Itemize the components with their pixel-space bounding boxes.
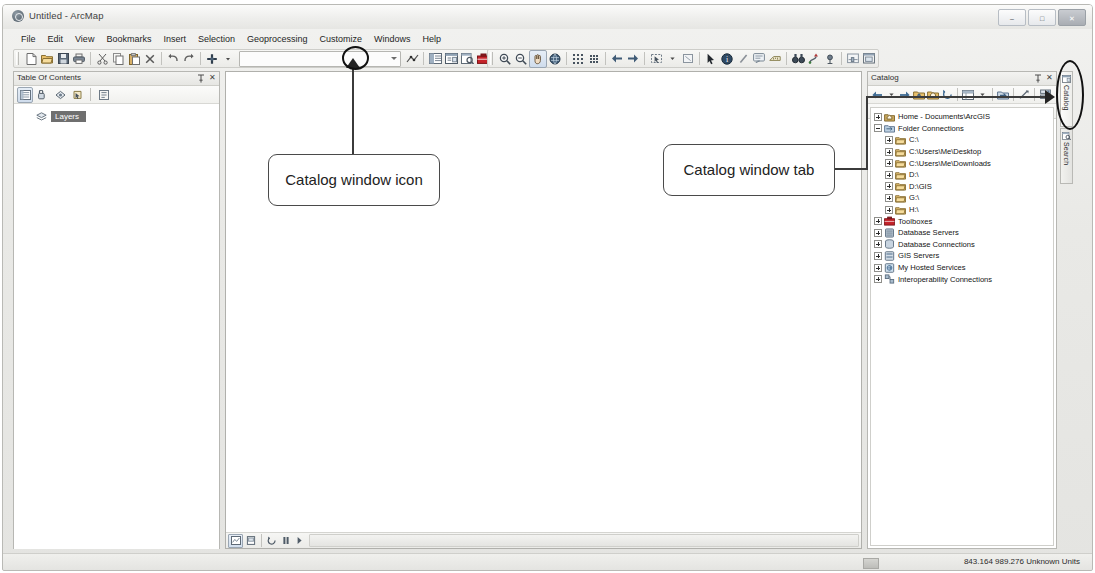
- list-by-visibility-icon[interactable]: [53, 88, 67, 102]
- maximize-button[interactable]: □: [1028, 9, 1056, 26]
- identify-icon[interactable]: i: [719, 51, 735, 67]
- pan-hand-icon[interactable]: [529, 50, 547, 68]
- catalog-window-icon[interactable]: [443, 51, 459, 67]
- menu-customize[interactable]: Customize: [314, 33, 369, 45]
- menu-edit[interactable]: Edit: [42, 33, 70, 45]
- pause-drawing-icon[interactable]: [279, 535, 292, 547]
- pin-icon[interactable]: [197, 74, 205, 83]
- map-canvas[interactable]: [226, 72, 861, 532]
- catalog-tree-item[interactable]: Toolboxes: [871, 215, 1053, 227]
- catalog-tree-item[interactable]: C:\Users\Me\Downloads: [871, 157, 1053, 169]
- catalog-tree[interactable]: Home - Documents\ArcGIS Folder Connectio…: [870, 107, 1054, 546]
- expander-icon[interactable]: [885, 148, 893, 156]
- toggle-contents-panel-icon[interactable]: [1017, 87, 1031, 102]
- select-features-icon[interactable]: [648, 51, 664, 67]
- view-dropdown-icon[interactable]: [975, 87, 989, 102]
- toc-layers-row[interactable]: Layers: [36, 111, 86, 122]
- menu-bookmarks[interactable]: Bookmarks: [100, 33, 157, 45]
- menu-selection[interactable]: Selection: [192, 33, 241, 45]
- layout-view-icon[interactable]: [244, 535, 257, 547]
- expander-icon[interactable]: [885, 206, 893, 214]
- catalog-tree-item[interactable]: D:\GIS: [871, 181, 1053, 193]
- html-popup-icon[interactable]: [751, 51, 767, 67]
- close-button[interactable]: ✕: [1058, 9, 1086, 26]
- catalog-tree-item[interactable]: Database Connections: [871, 239, 1053, 251]
- select-features-dropdown-icon[interactable]: [664, 51, 680, 67]
- menu-insert[interactable]: Insert: [157, 33, 192, 45]
- menu-file[interactable]: File: [15, 33, 42, 45]
- expander-icon[interactable]: [885, 171, 893, 179]
- map-scale-combo[interactable]: [239, 51, 401, 67]
- fixed-zoom-out-icon[interactable]: [586, 51, 602, 67]
- menu-windows[interactable]: Windows: [368, 33, 417, 45]
- table-of-contents-icon[interactable]: [427, 51, 443, 67]
- cut-scissors-icon[interactable]: [94, 51, 110, 67]
- clear-selection-icon[interactable]: [680, 51, 696, 67]
- catalog-tree-view-icon[interactable]: [961, 87, 975, 102]
- back-arrow-icon[interactable]: [870, 87, 884, 102]
- copy-icon[interactable]: [110, 51, 126, 67]
- toolbar-grip[interactable]: [16, 52, 21, 65]
- list-by-drawing-order-icon[interactable]: [17, 87, 33, 103]
- expander-icon[interactable]: [874, 252, 882, 260]
- add-data-icon[interactable]: [204, 51, 220, 67]
- expander-icon[interactable]: [874, 229, 882, 237]
- forward-extent-arrow-icon[interactable]: [625, 51, 641, 67]
- catalog-tree-item[interactable]: D:\: [871, 169, 1053, 181]
- find-binoculars-icon[interactable]: [790, 51, 806, 67]
- catalog-tree-item[interactable]: H:\: [871, 204, 1053, 216]
- pin-icon[interactable]: [1034, 74, 1042, 83]
- undo-arrow-icon[interactable]: [165, 51, 181, 67]
- select-elements-arrow-icon[interactable]: [703, 51, 719, 67]
- full-extent-globe-icon[interactable]: [547, 51, 563, 67]
- expander-icon[interactable]: [885, 194, 893, 202]
- catalog-tree-item[interactable]: GIS Servers: [871, 250, 1053, 262]
- catalog-tree-item[interactable]: My Hosted Services: [871, 262, 1053, 274]
- menu-view[interactable]: View: [69, 33, 100, 45]
- catalog-tree-item[interactable]: G:\: [871, 192, 1053, 204]
- expander-icon[interactable]: [874, 217, 882, 225]
- open-folder-icon[interactable]: [39, 51, 55, 67]
- add-data-dropdown-icon[interactable]: [220, 51, 236, 67]
- data-view-icon[interactable]: [228, 534, 243, 548]
- zoom-in-icon[interactable]: [497, 51, 513, 67]
- list-by-selection-icon[interactable]: [70, 88, 84, 102]
- expander-icon[interactable]: [874, 240, 882, 248]
- create-viewer-window-icon[interactable]: [861, 51, 877, 67]
- save-disk-icon[interactable]: [55, 51, 71, 67]
- zoom-out-icon[interactable]: [513, 51, 529, 67]
- back-dropdown-icon[interactable]: [884, 87, 898, 102]
- up-one-level-icon[interactable]: [912, 87, 926, 102]
- close-icon[interactable]: ✕: [1046, 73, 1053, 82]
- time-slider-icon[interactable]: [845, 51, 861, 67]
- refresh-view-icon[interactable]: [265, 535, 278, 547]
- catalog-tree-item[interactable]: Folder Connections: [871, 123, 1053, 135]
- expander-icon[interactable]: [885, 159, 893, 167]
- hyperlink-icon[interactable]: [735, 51, 751, 67]
- menu-geoprocessing[interactable]: Geoprocessing: [241, 33, 314, 45]
- home-folder-icon[interactable]: [926, 87, 940, 102]
- delete-x-icon[interactable]: [142, 51, 158, 67]
- options-icon[interactable]: [97, 88, 111, 102]
- find-route-icon[interactable]: [806, 51, 822, 67]
- new-document-icon[interactable]: [23, 51, 39, 67]
- horizontal-scrollbar[interactable]: [309, 534, 859, 547]
- measure-icon[interactable]: [767, 51, 783, 67]
- go-to-xy-icon[interactable]: [822, 51, 838, 67]
- forward-arrow-icon[interactable]: [898, 87, 912, 102]
- toolbar-grip[interactable]: [490, 52, 495, 65]
- expander-icon[interactable]: [874, 124, 882, 132]
- fixed-zoom-in-icon[interactable]: [570, 51, 586, 67]
- catalog-tree-item[interactable]: Home - Documents\ArcGIS: [871, 111, 1053, 123]
- refresh-icon[interactable]: [940, 87, 954, 102]
- expander-icon[interactable]: [885, 182, 893, 190]
- expander-icon[interactable]: [874, 264, 882, 272]
- minimize-button[interactable]: –: [998, 9, 1026, 26]
- catalog-tree-item[interactable]: C:\Users\Me\Desktop: [871, 146, 1053, 158]
- editor-toolbar-icon[interactable]: [404, 51, 420, 67]
- print-icon[interactable]: [71, 51, 87, 67]
- expander-icon[interactable]: [885, 136, 893, 144]
- paste-icon[interactable]: [126, 51, 142, 67]
- connect-to-folder-icon[interactable]: [996, 87, 1010, 102]
- back-extent-arrow-icon[interactable]: [609, 51, 625, 67]
